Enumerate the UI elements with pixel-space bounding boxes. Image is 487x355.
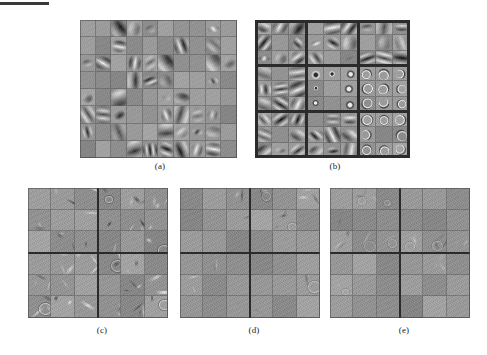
filter-tile (341, 127, 358, 142)
sparse-stroke (163, 192, 168, 207)
filter-tile (145, 210, 168, 232)
gabor-filter (376, 20, 393, 35)
filter-tile (96, 72, 112, 89)
sparse-stroke (150, 296, 152, 301)
filter-tile (28, 188, 51, 210)
filter-tile (341, 35, 358, 50)
filter-tile (158, 89, 174, 106)
filter-tile (96, 55, 112, 72)
filter-tile (393, 112, 410, 127)
filter-tile (393, 66, 410, 81)
filter-tile (250, 188, 273, 210)
filter-tile (227, 210, 250, 232)
gabor-filter (143, 55, 159, 72)
gabor-filter (206, 72, 222, 89)
crescent-filter (396, 84, 407, 94)
filter-tile (272, 143, 289, 158)
gabor-filter (358, 51, 375, 66)
gabor-filter (324, 35, 341, 50)
gabor-filter (341, 35, 358, 50)
gabor-filter (127, 55, 143, 72)
filter-panel-e (330, 188, 470, 318)
filter-tile (324, 97, 341, 112)
panel-caption-a: (a) (148, 161, 172, 171)
filter-tile (98, 231, 121, 253)
sparse-ring (388, 239, 398, 248)
filter-tile (51, 188, 74, 210)
sparse-stroke (54, 253, 70, 257)
sparse-ring (159, 300, 168, 310)
filter-tile (180, 210, 203, 232)
crescent-filter (361, 130, 373, 141)
sparse-stroke (55, 188, 57, 195)
gabor-filter (206, 106, 222, 123)
center-surround-filter (312, 100, 320, 107)
filter-tile (377, 210, 400, 232)
filter-tile (28, 210, 51, 232)
filter-tile (324, 81, 341, 96)
filter-tile (75, 253, 98, 275)
filter-tile (250, 275, 273, 297)
filter-tile (206, 141, 222, 158)
gabor-filter (190, 141, 206, 158)
gabor-filter (158, 55, 174, 72)
filter-tile (203, 296, 226, 318)
filter-tile (330, 296, 353, 318)
sparse-stroke (148, 275, 164, 283)
filter-grid-d (180, 188, 320, 318)
filter-tile (423, 253, 446, 275)
filter-tile (297, 231, 320, 253)
filter-tile (180, 188, 203, 210)
filter-grid-e (330, 188, 470, 318)
filter-panel-b (255, 20, 410, 158)
sparse-stroke (101, 188, 108, 194)
sparse-stroke (311, 192, 320, 204)
gabor-filter (289, 81, 306, 96)
filter-tile (250, 253, 273, 275)
filter-tile (289, 66, 306, 81)
filter-tile (96, 89, 112, 106)
gabor-filter (255, 20, 272, 35)
gabor-filter (143, 72, 159, 89)
filter-tile (96, 106, 112, 123)
sparse-stroke (135, 260, 138, 267)
filter-tile (289, 143, 306, 158)
sparse-stroke (300, 189, 315, 191)
filter-tile (341, 81, 358, 96)
filter-tile (307, 35, 324, 50)
filter-tile (190, 20, 206, 37)
filter-tile (203, 275, 226, 297)
sparse-stroke (437, 261, 446, 274)
filter-tile (80, 72, 96, 89)
sparse-stroke (33, 280, 38, 285)
sparse-stroke (336, 281, 343, 288)
gabor-filter (307, 127, 324, 142)
filter-tile (447, 188, 470, 210)
crescent-filter (378, 97, 391, 111)
center-surround-filter (345, 101, 355, 110)
filter-tile (358, 35, 375, 50)
filter-tile (206, 89, 222, 106)
gabor-filter (341, 143, 358, 158)
filter-tile (180, 296, 203, 318)
filter-tile (307, 143, 324, 158)
filter-tile (289, 81, 306, 96)
sparse-stroke (145, 237, 154, 244)
filter-tile (111, 72, 127, 89)
filter-tile (121, 275, 144, 297)
filter-tile (75, 188, 98, 210)
filter-tile (358, 97, 375, 112)
filter-tile (330, 210, 353, 232)
panel-caption-b: (b) (323, 161, 347, 171)
gabor-filter (341, 20, 358, 35)
filter-tile (51, 275, 74, 297)
gabor-filter (96, 106, 112, 123)
gabor-filter (127, 141, 143, 158)
gabor-filter (255, 66, 272, 81)
filter-tile (28, 253, 51, 275)
gabor-filter (111, 20, 127, 37)
filter-tile (158, 124, 174, 141)
filter-tile (330, 188, 353, 210)
filter-tile (330, 275, 353, 297)
filter-tile (75, 296, 98, 318)
